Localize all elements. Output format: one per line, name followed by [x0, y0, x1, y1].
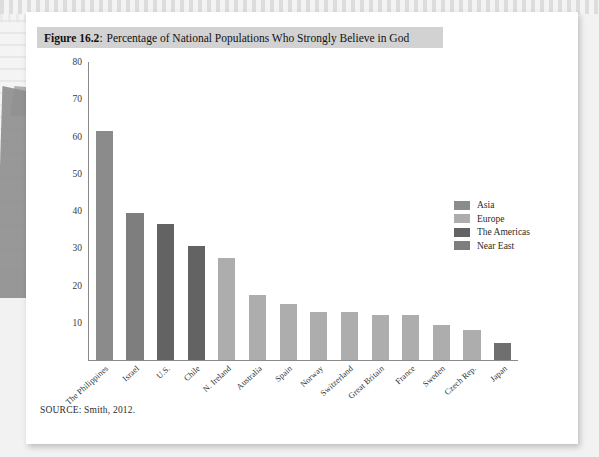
- legend-label: The Americas: [477, 227, 530, 237]
- bar-slot: [120, 62, 151, 360]
- chart-legend: AsiaEuropeThe AmericasNear East: [454, 200, 530, 254]
- bar-slot: [365, 62, 396, 360]
- legend-item: Europe: [454, 214, 530, 224]
- x-label-slot: France: [395, 362, 426, 420]
- x-tick-label: Israel: [121, 364, 141, 383]
- bar-slot: [212, 62, 243, 360]
- y-tick-10: 10: [73, 318, 83, 328]
- bar-australia: [249, 295, 266, 360]
- bar-the-philippines: [96, 131, 113, 360]
- bar-japan: [494, 343, 511, 360]
- x-axis-line: [88, 360, 518, 361]
- source-note: SOURCE: Smith, 2012.: [40, 405, 135, 415]
- legend-swatch-icon: [454, 241, 470, 250]
- x-label-slot: Japan: [487, 362, 518, 420]
- bar-israel: [126, 213, 143, 360]
- bar-france: [402, 315, 419, 360]
- x-label-slot: U.S.: [150, 362, 181, 420]
- x-tick-label: Chile: [182, 364, 202, 383]
- bar-slot: [426, 62, 457, 360]
- legend-swatch-icon: [454, 214, 470, 223]
- bar-slot: [181, 62, 212, 360]
- x-label-slot: N. Ireland: [212, 362, 243, 420]
- y-tick-60: 60: [73, 132, 83, 142]
- legend-item: Asia: [454, 200, 530, 210]
- bar-spain: [280, 304, 297, 360]
- chart-plot: 8070605040302010 The PhilippinesIsraelU.…: [26, 12, 578, 444]
- bar-n-ireland: [218, 258, 235, 360]
- x-tick-label: Japan: [488, 364, 508, 384]
- bar-u-s: [157, 224, 174, 360]
- bar-slot: [334, 62, 365, 360]
- legend-item: The Americas: [454, 227, 530, 237]
- legend-label: Asia: [477, 200, 494, 210]
- x-tick-label: Spain: [274, 364, 294, 384]
- bar-switzerland: [341, 312, 358, 360]
- x-label-slot: Czech Rep.: [457, 362, 488, 420]
- y-tick-50: 50: [73, 169, 83, 179]
- x-label-slot: Spain: [273, 362, 304, 420]
- legend-label: Near East: [477, 241, 514, 251]
- bar-slot: [273, 62, 304, 360]
- legend-swatch-icon: [454, 228, 470, 237]
- legend-label: Europe: [477, 214, 504, 224]
- x-tick-label: France: [393, 364, 416, 386]
- bar-sweden: [433, 325, 450, 360]
- y-tick-30: 30: [73, 243, 83, 253]
- figure-page: Figure 16.2: Percentage of National Popu…: [26, 12, 578, 444]
- y-tick-70: 70: [73, 94, 83, 104]
- y-tick-20: 20: [73, 281, 83, 291]
- bar-czech-rep: [463, 330, 480, 360]
- bar-great-britain: [372, 315, 389, 360]
- bar-norway: [310, 312, 327, 360]
- bar-slot: [303, 62, 334, 360]
- x-label-slot: Great Britain: [365, 362, 396, 420]
- x-tick-label: Sweden: [421, 364, 447, 389]
- bar-chile: [188, 246, 205, 360]
- legend-item: Near East: [454, 241, 530, 251]
- y-tick-80: 80: [73, 57, 83, 67]
- bar-slot: [395, 62, 426, 360]
- x-tick-label: U.S.: [154, 364, 171, 381]
- bar-slot: [242, 62, 273, 360]
- x-label-slot: Australia: [242, 362, 273, 420]
- x-tick-label: The Philippines: [64, 364, 110, 407]
- bar-slot: [150, 62, 181, 360]
- y-tick-40: 40: [73, 206, 83, 216]
- x-axis-tick-labels: The PhilippinesIsraelU.S.ChileN. Ireland…: [89, 362, 518, 420]
- legend-swatch-icon: [454, 201, 470, 210]
- bar-slot: [89, 62, 120, 360]
